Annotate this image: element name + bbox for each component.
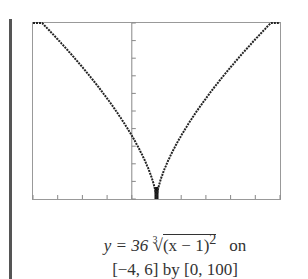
radicand-text: (x − 1): [163, 236, 209, 255]
graph-caption: y = 36 3√(x − 1)2 on [−4, 6] by [0, 100]: [60, 228, 290, 279]
equation-prefix: y = 36: [104, 236, 149, 255]
exponent: 2: [209, 231, 216, 247]
on-word: on: [229, 236, 246, 255]
radicand: (x − 1)2: [163, 234, 217, 255]
graph-frame: [33, 23, 281, 200]
root-index: 3: [153, 234, 158, 245]
equation-line: y = 36 3√(x − 1)2 on: [60, 228, 290, 259]
calculator-graph: [0, 0, 308, 230]
window-range: [−4, 6] by [0, 100]: [60, 259, 290, 279]
cube-root: 3√(x − 1)2: [153, 228, 217, 259]
